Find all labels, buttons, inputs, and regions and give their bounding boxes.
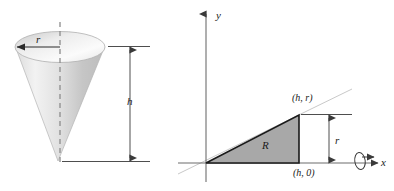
y-axis-label: y: [216, 10, 221, 21]
point-h-r-label: (h, r): [292, 93, 313, 103]
figure-svg: [0, 0, 394, 191]
revolve-about-x-axis-icon: [354, 152, 374, 170]
point-h-0-label: (h, 0): [293, 168, 315, 178]
region-R-triangle: [206, 115, 299, 163]
x-axis-label: x: [381, 157, 386, 168]
cone-radius-label: r: [36, 34, 40, 45]
region-label: R: [262, 140, 269, 151]
figure-canvas: r h y x R r (h, r) (h, 0): [0, 0, 394, 191]
graph-group: [178, 14, 378, 182]
cone-height-label: h: [127, 96, 133, 107]
graph-radius-label: r: [335, 135, 339, 146]
